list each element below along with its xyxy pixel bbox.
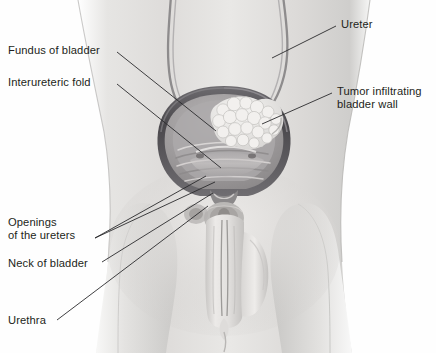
label-openings-of-the-ureters: Openingsof the ureters: [8, 216, 75, 243]
anatomical-figure: Fundus of bladder Interureteric fold Ope…: [0, 0, 436, 353]
label-tumor-infiltrating-bladder-wall: Tumor infiltratingbladder wall: [337, 85, 422, 112]
label-openings-line1: Openings: [8, 216, 57, 228]
label-fundus-of-bladder: Fundus of bladder: [8, 44, 100, 57]
label-neck-of-bladder: Neck of bladder: [8, 257, 88, 270]
label-tumor-line2: bladder wall: [337, 98, 398, 110]
label-urethra: Urethra: [8, 314, 46, 327]
label-openings-line2: of the ureters: [8, 229, 75, 241]
label-interureteric-fold: Interureteric fold: [8, 76, 91, 89]
label-tumor-line1: Tumor infiltrating: [337, 85, 422, 97]
label-ureter: Ureter: [341, 18, 373, 31]
